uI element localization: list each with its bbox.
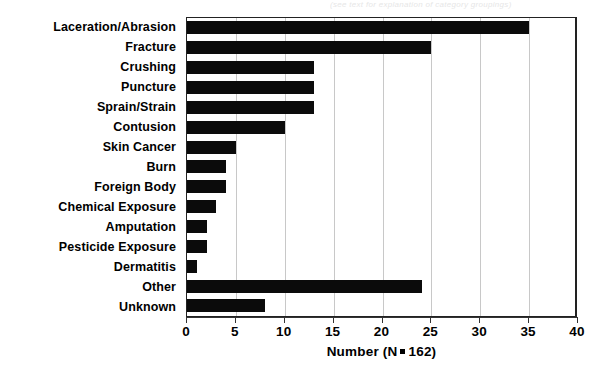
x-axis-tick-label: 35: [520, 324, 535, 339]
x-axis-tick: [528, 317, 529, 323]
bar: [187, 81, 314, 94]
bar-row: [187, 236, 575, 256]
x-axis-tick-label: 20: [374, 324, 389, 339]
bar-row: [187, 276, 575, 296]
x-axis-title: Number (N162): [186, 344, 577, 359]
category-label: Crushing: [0, 57, 182, 77]
category-label: Puncture: [0, 77, 182, 97]
bar-row: [187, 256, 575, 276]
bar-row: [187, 217, 575, 237]
x-axis-tick-label: 5: [231, 324, 239, 339]
category-label: Amputation: [0, 217, 182, 237]
x-axis-tick: [186, 317, 187, 323]
x-axis-tick: [430, 317, 431, 323]
bar-row: [187, 117, 575, 137]
bar-row: [187, 18, 575, 38]
category-label: Laceration/Abrasion: [0, 17, 182, 37]
x-axis-title-suffix: 162): [408, 344, 436, 359]
bar: [187, 101, 314, 114]
bar-row: [187, 97, 575, 117]
bar-row: [187, 177, 575, 197]
category-label: Chemical Exposure: [0, 197, 182, 217]
x-axis-tick-label: 40: [569, 324, 584, 339]
x-axis-tick: [577, 317, 578, 323]
x-axis-tick-label: 25: [423, 324, 438, 339]
bar-row: [187, 157, 575, 177]
category-label: Pesticide Exposure: [0, 237, 182, 257]
bar-chart: (see text for explanation of category gr…: [0, 0, 598, 369]
bar: [187, 260, 197, 273]
bar-row: [187, 137, 575, 157]
bar: [187, 61, 314, 74]
x-axis-tick: [284, 317, 285, 323]
category-label: Foreign Body: [0, 177, 182, 197]
x-axis-tick-label: 30: [472, 324, 487, 339]
category-label: Dermatitis: [0, 257, 182, 277]
bar-row: [187, 38, 575, 58]
bar: [187, 21, 529, 34]
bar: [187, 200, 216, 213]
scan-artifact-text: (see text for explanation of category gr…: [330, 0, 592, 11]
bar: [187, 299, 265, 312]
category-label: Unknown: [0, 297, 182, 317]
x-axis-tick: [235, 317, 236, 323]
x-axis-tick: [333, 317, 334, 323]
bar: [187, 41, 431, 54]
x-axis-tick-label: 10: [276, 324, 291, 339]
bar-row: [187, 296, 575, 316]
bar: [187, 220, 207, 233]
bar-row: [187, 78, 575, 98]
category-label: Fracture: [0, 37, 182, 57]
x-axis-tick-label: 15: [325, 324, 340, 339]
bar: [187, 240, 207, 253]
category-label: Skin Cancer: [0, 137, 182, 157]
x-axis-tick-label: 0: [182, 324, 190, 339]
bar: [187, 121, 285, 134]
category-label: Burn: [0, 157, 182, 177]
bar: [187, 160, 226, 173]
bar-row: [187, 197, 575, 217]
bar-row: [187, 58, 575, 78]
bar: [187, 280, 422, 293]
equals-glyph-icon: [400, 349, 405, 354]
bar-series: [187, 18, 575, 316]
plot-area: [186, 17, 577, 317]
x-axis-title-prefix: Number (N: [327, 344, 398, 359]
x-axis-tick: [382, 317, 383, 323]
x-axis-tick: [479, 317, 480, 323]
category-label: Sprain/Strain: [0, 97, 182, 117]
category-label: Contusion: [0, 117, 182, 137]
category-label: Other: [0, 277, 182, 297]
bar: [187, 141, 236, 154]
bar: [187, 180, 226, 193]
category-axis-labels: Laceration/AbrasionFractureCrushingPunct…: [0, 17, 182, 317]
